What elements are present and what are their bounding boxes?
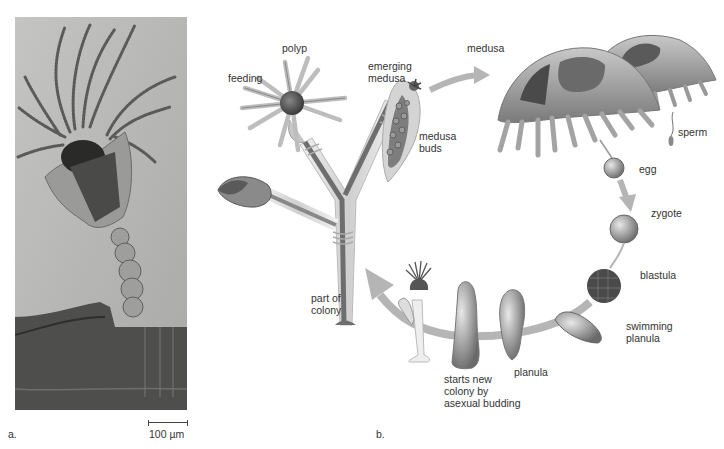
label-feeding: feeding (228, 72, 262, 84)
polyp-micrograph (15, 17, 187, 410)
label-medusa: medusa (467, 42, 504, 54)
label-part-of-colony-1: part of (311, 292, 341, 304)
label-swimming-planula-1: swimming (626, 320, 673, 332)
label-emerging-medusa-2: medusa (368, 72, 405, 84)
sperm (669, 112, 674, 146)
new-colony-polyp (452, 282, 479, 369)
swimming-planula (555, 312, 601, 343)
label-zygote: zygote (651, 207, 682, 219)
young-polyp (399, 261, 432, 362)
label-sperm: sperm (678, 126, 707, 138)
label-polyp: polyp (282, 42, 307, 54)
egg (604, 158, 624, 178)
label-swimming-planula-2: planula (626, 332, 660, 344)
label-egg: egg (639, 163, 657, 175)
label-medusa-buds-1: medusa (419, 130, 456, 142)
scale-bar (148, 420, 188, 426)
label-medusa-buds-2: buds (419, 142, 442, 154)
medusa-bud-polyp (382, 79, 421, 182)
panel-a-letter: a. (8, 428, 17, 440)
label-blastula: blastula (640, 269, 676, 281)
blastula (587, 269, 621, 303)
panel-b-letter: b. (376, 428, 385, 440)
label-part-of-colony-2: colony (311, 304, 341, 316)
label-emerging-medusa-1: emerging (368, 60, 412, 72)
zygote (610, 215, 638, 243)
label-starts-new-3: asexual budding (444, 397, 520, 409)
label-planula: planula (514, 366, 548, 378)
label-starts-new-2: colony by (444, 385, 488, 397)
scale-bar-label: 100 µm (149, 428, 184, 440)
planula (500, 290, 525, 360)
micrograph-panel (15, 17, 187, 410)
reproductive-polyp-closed (218, 177, 271, 207)
arrow-to-medusa (430, 75, 478, 90)
label-starts-new-1: starts new (444, 373, 492, 385)
